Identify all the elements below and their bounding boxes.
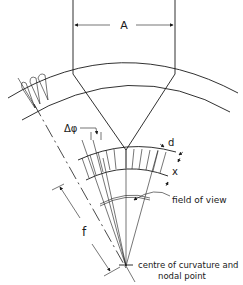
outer-surface-arcs bbox=[8, 63, 238, 120]
label-centre-line1: centre of curvature and bbox=[138, 260, 239, 270]
label-field-of-view: field of view bbox=[172, 195, 227, 205]
label-centre-line2: nodal point bbox=[158, 271, 207, 281]
focal-length-dimension: f bbox=[52, 184, 120, 276]
label-delta-phi: Δφ bbox=[64, 123, 78, 134]
label-d: d bbox=[168, 137, 174, 148]
aperture-dimension: A bbox=[75, 19, 173, 32]
field-of-view-annotation: field of view bbox=[100, 192, 227, 206]
optical-axes bbox=[34, 104, 158, 282]
delta-phi-annotation: Δφ bbox=[64, 123, 101, 140]
label-a: A bbox=[120, 19, 128, 32]
receptor-layer bbox=[78, 147, 176, 180]
eye-optics-diagram: A bbox=[0, 0, 243, 285]
label-f: f bbox=[82, 225, 87, 239]
label-x: x bbox=[172, 166, 178, 177]
adjacent-ommatidia bbox=[18, 74, 48, 108]
